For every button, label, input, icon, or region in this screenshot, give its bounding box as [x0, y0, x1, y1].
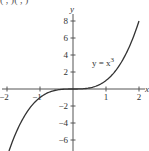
- y-tick-label: −6: [58, 135, 68, 145]
- y-tick-label: 8: [64, 16, 69, 26]
- cubic-curve: [9, 21, 139, 151]
- x-tick-label: 2: [137, 92, 142, 102]
- y-tick-label: −2: [58, 101, 68, 111]
- y-tick-label: 2: [64, 67, 69, 77]
- x-tick-label: 1: [104, 92, 109, 102]
- x-axis-label: x: [144, 84, 149, 94]
- y-tick-label: 4: [64, 50, 69, 60]
- cubic-function-plot: −2−112 8642−2−4−6 x y y = x3: [0, 0, 149, 151]
- curve-label: y = x3: [92, 56, 115, 68]
- y-tick-label: −4: [58, 118, 68, 128]
- x-tick-label: −2: [0, 92, 9, 102]
- y-axis-label: y: [69, 4, 74, 14]
- y-tick-label: 6: [64, 33, 69, 43]
